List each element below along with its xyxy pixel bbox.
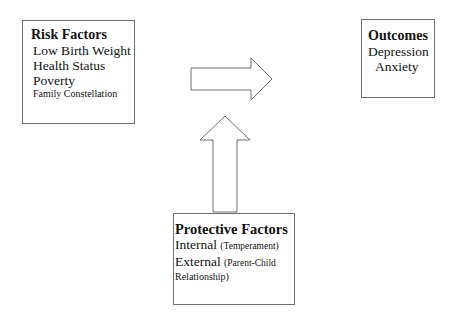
internal-note: (Temperament) [220,241,278,251]
outcomes-title: Outcomes [368,28,434,44]
outcome-item-depression: Depression [368,44,434,59]
external-note: (Parent-Child [224,258,276,268]
outcome-item-anxiety: Anxiety [368,59,434,74]
protective-item-external: External (Parent-Child [175,254,294,271]
external-note-continuation: Relationship) [175,271,294,283]
risk-item-low-birth-weight: Low Birth Weight [31,43,134,58]
risk-item-poverty: Poverty [31,73,134,88]
protective-factors-box: Protective Factors Internal (Temperament… [173,213,295,305]
risk-factors-title: Risk Factors [31,27,134,43]
outcomes-box: Outcomes Depression Anxiety [361,19,435,98]
protective-item-internal: Internal (Temperament) [175,237,294,254]
internal-label: Internal [175,237,217,252]
risk-factors-box: Risk Factors Low Birth Weight Health Sta… [22,20,135,124]
up-arrow-icon [200,116,250,212]
risk-item-health-status: Health Status [31,58,134,73]
protective-factors-title: Protective Factors [175,221,294,237]
external-label: External [175,254,221,269]
risk-item-family-constellation: Family Constellation [31,88,134,100]
right-arrow-icon [191,58,272,100]
